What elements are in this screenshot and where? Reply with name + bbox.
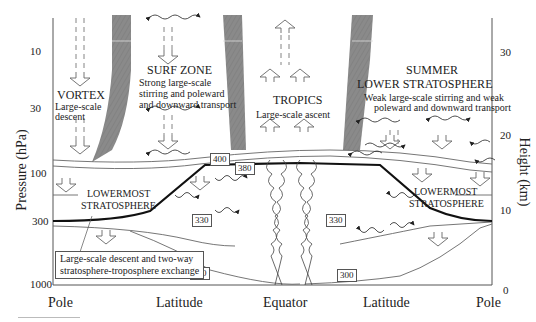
summer-subtitle: LOWER STRATOSPHERE: [357, 78, 492, 90]
tropics-title: TROPICS: [273, 94, 322, 106]
ste-note-line-1: Large-scale descent and two-way: [60, 253, 199, 265]
lowermost-left-2: STRATOSPHERE: [81, 200, 156, 211]
summer-title: SUMMER: [406, 64, 458, 76]
isentrope-label-300-right: 300: [337, 269, 357, 282]
isentrope-label-330-right: 330: [326, 214, 346, 227]
x-label-equator: Equator: [263, 296, 307, 310]
ste-note-line-2: stratosphere-troposphere exchange: [60, 265, 199, 277]
transport-barrier-bands: [92, 15, 373, 162]
vortex-desc-2: descent: [55, 111, 85, 122]
isentrope-330-right: [340, 222, 492, 244]
tropics-desc: Large-scale ascent: [256, 109, 330, 120]
tropical-convection-columns: [266, 160, 316, 285]
lowermost-right-1: LOWERMOST: [414, 186, 477, 197]
surf-zone-desc-1: Strong large-scale: [139, 77, 211, 88]
isentrope-label-400: 400: [210, 153, 230, 166]
isentrope-330-left: [53, 226, 235, 246]
isentrope-label-330-left: 330: [192, 214, 212, 227]
surf-zone-desc-2: stirring and poleward: [139, 88, 225, 99]
x-label-latitude-left: Latitude: [156, 296, 203, 310]
y-tick-30: 30: [30, 103, 41, 114]
x-label-pole-right: Pole: [476, 296, 501, 310]
h-tick-10: 10: [500, 205, 511, 216]
h-tick-30: 30: [500, 47, 511, 58]
subtropical-barrier-left: [223, 15, 246, 150]
y-axis-left-title: Pressure (hPa): [15, 120, 29, 220]
isentrope-label-380: 380: [235, 162, 255, 175]
surf-zone-title: SURF ZONE: [147, 64, 212, 76]
surf-zone-desc-3: and downward transport: [139, 99, 236, 110]
y-tick-1000: 1000: [30, 279, 52, 290]
isentrope-400: [53, 150, 492, 164]
footnote-rule: [18, 317, 80, 318]
y-tick-10: 10: [30, 46, 41, 57]
vortex-title: VORTEX: [57, 89, 105, 101]
summer-desc-2: poleward and downward transport: [374, 102, 511, 113]
ste-note-box: Large-scale descent and two-way stratosp…: [55, 251, 204, 279]
isentrope-300-right: [305, 224, 492, 284]
y-axis-right-title: Height (km): [517, 122, 531, 222]
lowermost-right-2: STRATOSPHERE: [409, 198, 484, 209]
lowermost-left-1: LOWERMOST: [87, 188, 150, 199]
x-label-pole-left: Pole: [48, 296, 73, 310]
y-tick-100: 100: [30, 168, 47, 179]
y-tick-300: 300: [32, 216, 49, 227]
stratosphere-circulation-diagram: Pressure (hPa) 10 30 100 300 1000 30 20 …: [0, 0, 536, 322]
h-tick-20: 20: [500, 130, 511, 141]
x-label-latitude-right: Latitude: [363, 296, 410, 310]
h-tick-0: 0: [503, 285, 509, 296]
